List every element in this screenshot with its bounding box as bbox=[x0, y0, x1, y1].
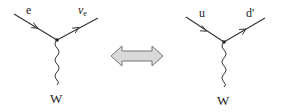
up-quark-label: u bbox=[199, 6, 205, 20]
right-w-label: W bbox=[217, 93, 230, 108]
electron-line bbox=[14, 14, 57, 40]
down-prime-quark-label: d′ bbox=[246, 6, 255, 20]
right-vertex-diagram: u d′ W bbox=[186, 6, 265, 108]
neutrino-label-sub: e bbox=[83, 9, 87, 18]
w-boson-wavy-line bbox=[222, 42, 226, 87]
equivalence-double-arrow-icon bbox=[111, 46, 163, 66]
left-w-label: W bbox=[50, 91, 63, 106]
neutrino-label: νe bbox=[78, 3, 87, 18]
left-vertex-diagram: e νe W bbox=[14, 3, 98, 106]
electron-label: e bbox=[26, 3, 31, 17]
w-boson-wavy-line bbox=[55, 40, 59, 85]
down-prime-quark-line bbox=[224, 18, 265, 42]
feynman-diagram: e νe W u d′ W bbox=[0, 0, 283, 112]
